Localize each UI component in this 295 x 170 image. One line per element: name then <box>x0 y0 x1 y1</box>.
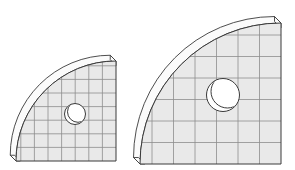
scene-canvas <box>0 0 295 170</box>
plate-small <box>7 52 118 163</box>
quarter-disc-illustration <box>0 0 295 170</box>
plate-large <box>131 14 284 167</box>
